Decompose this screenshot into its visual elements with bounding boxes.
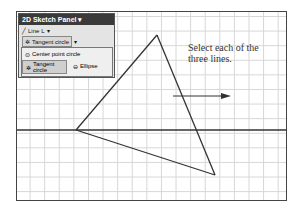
ellipse-icon: ⊖ [73,63,78,70]
line-shortcut: L [41,28,44,34]
chevron-down-icon[interactable]: ▾ [74,38,77,45]
tangent-circle-icon: ✲ [26,64,31,71]
tangent-circle-icon: ✲ [25,38,30,45]
panel-title[interactable]: 2D Sketch Panel ▾ [19,14,114,25]
line-icon: ╱ [22,27,26,34]
menu-item-center-point-circle[interactable]: ⊙ Center point circle [22,48,112,60]
line-tool-row[interactable]: ╱ Line L ▾ [19,25,114,36]
chevron-down-icon[interactable]: ▾ [47,27,50,34]
circle-tool-row: ✲ Tangent circle ▾ [19,36,114,47]
line-label: Line [28,28,39,34]
center-circle-icon: ⊙ [25,51,30,58]
instruction-text: Select each of the three lines. [188,42,288,64]
arrow-head-icon [221,93,231,99]
menu-item-tangent-circle[interactable]: ✲ Tangent circle [22,60,67,74]
menu-item-ellipse[interactable]: ⊖ Ellipse [70,60,98,72]
triangle-line-bottom[interactable] [76,130,215,175]
tangent-circle-button[interactable]: ✲ Tangent circle [22,36,72,47]
circle-dropdown-menu: ⊙ Center point circle ✲ Tangent circle ⊖… [21,47,113,77]
